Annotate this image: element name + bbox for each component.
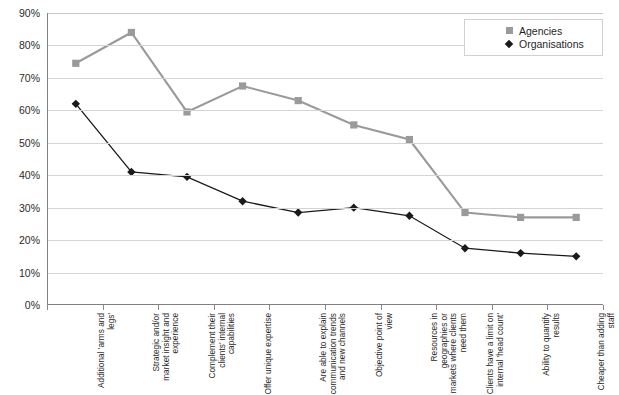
gridline bbox=[48, 273, 603, 274]
x-tick bbox=[381, 305, 382, 310]
data-point bbox=[572, 252, 580, 260]
x-category-label: Strategic and/or market insight and expe… bbox=[152, 312, 208, 395]
gridline bbox=[48, 78, 603, 79]
data-point bbox=[405, 212, 413, 220]
y-tick-label: 20% bbox=[0, 235, 40, 245]
x-tick bbox=[492, 305, 493, 310]
y-tick-label: 50% bbox=[0, 138, 40, 148]
data-point bbox=[183, 173, 191, 181]
legend-label-organisations: Organisations bbox=[519, 38, 584, 50]
x-axis-labels: Additional 'arms and legs'Strategic and/… bbox=[47, 312, 603, 395]
x-category-label: Cheaper than adding staff bbox=[597, 312, 619, 395]
data-point bbox=[295, 97, 302, 104]
data-point bbox=[238, 197, 246, 205]
y-tick-label: 40% bbox=[0, 170, 40, 180]
data-point bbox=[350, 121, 357, 128]
y-tick-label: 60% bbox=[0, 105, 40, 115]
square-marker-icon bbox=[503, 25, 515, 37]
gridline bbox=[48, 110, 603, 111]
x-category-label: Additional 'arms and legs' bbox=[97, 312, 153, 395]
data-point bbox=[461, 244, 469, 252]
legend-item-agencies: Agencies bbox=[503, 24, 596, 37]
x-category-label: Objective point of view bbox=[375, 312, 431, 395]
y-tick-label: 30% bbox=[0, 203, 40, 213]
gridline bbox=[48, 240, 603, 241]
x-tick bbox=[603, 305, 604, 310]
y-tick-label: 0% bbox=[0, 300, 40, 310]
y-tick-label: 70% bbox=[0, 73, 40, 83]
data-point bbox=[72, 60, 79, 67]
x-category-label: Resources in geographies or markets wher… bbox=[430, 312, 486, 395]
data-point bbox=[573, 214, 580, 221]
x-category-label: Ability to quantify results bbox=[542, 312, 598, 395]
data-point bbox=[516, 249, 524, 257]
x-axis-ticks bbox=[47, 305, 603, 311]
gridline bbox=[48, 143, 603, 144]
x-category-label: Are able to explain communication trends… bbox=[319, 312, 375, 395]
x-category-label: Clients have a limit on internal 'head c… bbox=[486, 312, 542, 395]
x-tick bbox=[547, 305, 548, 310]
x-tick bbox=[158, 305, 159, 310]
chart-legend: Agencies Organisations bbox=[464, 19, 603, 56]
data-point bbox=[294, 208, 302, 216]
series-line-organisations bbox=[76, 104, 576, 256]
data-point bbox=[461, 209, 468, 216]
plot-area bbox=[47, 13, 603, 305]
y-tick-label: 90% bbox=[0, 8, 40, 18]
gridline bbox=[48, 208, 603, 209]
data-point bbox=[239, 82, 246, 89]
x-tick bbox=[47, 305, 48, 310]
series-line-agencies bbox=[76, 32, 576, 217]
legend-label-agencies: Agencies bbox=[519, 25, 562, 37]
gridline bbox=[48, 13, 603, 14]
gridline bbox=[48, 175, 603, 176]
x-tick bbox=[269, 305, 270, 310]
x-category-label: Complement their clients' internal capab… bbox=[208, 312, 264, 395]
legend-item-organisations: Organisations bbox=[503, 37, 596, 50]
x-tick bbox=[103, 305, 104, 310]
y-tick-label: 10% bbox=[0, 268, 40, 278]
y-axis: 0%10%20%30%40%50%60%70%80%90% bbox=[0, 0, 44, 318]
x-category-label: Offer unique expertise bbox=[264, 312, 320, 395]
series-layer bbox=[48, 13, 604, 305]
data-point bbox=[128, 29, 135, 36]
x-tick bbox=[436, 305, 437, 310]
data-point bbox=[517, 214, 524, 221]
x-tick bbox=[214, 305, 215, 310]
y-tick-label: 80% bbox=[0, 40, 40, 50]
x-tick bbox=[325, 305, 326, 310]
diamond-marker-icon bbox=[503, 38, 515, 50]
